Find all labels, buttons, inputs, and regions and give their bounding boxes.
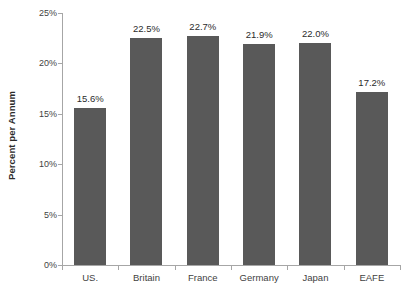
x-axis-tick-mark: [287, 265, 288, 270]
x-axis-category-labels: US.BritainFranceGermanyJapanEAFE: [62, 272, 400, 292]
bar-group: 22.0%: [287, 13, 343, 265]
x-axis-category-label: Japan: [303, 272, 329, 283]
x-axis-tick-mark: [118, 265, 119, 270]
bar[interactable]: [356, 92, 388, 265]
bar[interactable]: [130, 38, 162, 265]
x-axis-tick-mark: [344, 265, 345, 270]
x-axis-category-label: EAFE: [359, 272, 384, 283]
bar-value-label: 22.0%: [302, 28, 329, 39]
bar-value-label: 15.6%: [77, 93, 104, 104]
bar-group: 17.2%: [344, 13, 400, 265]
bar-value-label: 17.2%: [358, 77, 385, 88]
y-axis-tick-label: 0%: [23, 260, 57, 270]
x-axis-tick-mark: [175, 265, 176, 270]
bar-group: 22.5%: [118, 13, 174, 265]
bar[interactable]: [299, 43, 331, 265]
y-axis-tick-label: 15%: [23, 109, 57, 119]
y-axis-title: Percent per Annum: [0, 0, 22, 270]
bar-value-label: 21.9%: [246, 29, 273, 40]
bar[interactable]: [74, 108, 106, 265]
y-axis-tick-label: 10%: [23, 159, 57, 169]
bar-chart: Percent per Annum 0%5%10%15%20%25% 15.6%…: [0, 0, 413, 306]
y-axis-tick-label: 20%: [23, 58, 57, 68]
bar-group: 15.6%: [62, 13, 118, 265]
x-axis-category-label: France: [188, 272, 218, 283]
bar[interactable]: [243, 44, 275, 265]
x-axis-tick-mark: [62, 265, 63, 270]
x-axis-category-label: US.: [82, 272, 98, 283]
x-axis-category-label: Germany: [240, 272, 279, 283]
y-axis-tick-labels: 0%5%10%15%20%25%: [20, 0, 57, 306]
y-axis-tick-label: 5%: [23, 210, 57, 220]
bar-group: 22.7%: [175, 13, 231, 265]
y-axis-title-text: Percent per Annum: [6, 91, 17, 180]
x-axis-tick-mark: [400, 265, 401, 270]
bar[interactable]: [187, 36, 219, 265]
bar-value-label: 22.5%: [133, 23, 160, 34]
plot-area: 15.6%22.5%22.7%21.9%22.0%17.2%: [62, 13, 400, 265]
y-axis-tick-label: 25%: [23, 8, 57, 18]
x-axis-category-label: Britain: [133, 272, 160, 283]
bar-group: 21.9%: [231, 13, 287, 265]
x-axis-tick-mark: [231, 265, 232, 270]
bar-value-label: 22.7%: [189, 21, 216, 32]
